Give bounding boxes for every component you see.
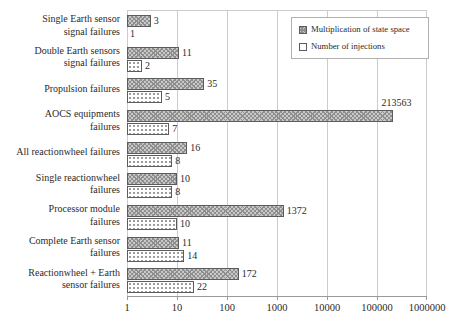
bar-dots — [127, 155, 172, 167]
bar-hatch — [127, 237, 179, 249]
x-tick-label: 1 — [124, 302, 129, 313]
bar-value-label: 35 — [207, 78, 217, 90]
bar-value-label: 3 — [154, 15, 159, 27]
legend-item-injections: Number of injections — [299, 42, 423, 51]
bar-dots — [127, 91, 162, 103]
bar-value-label: 8 — [175, 155, 180, 167]
bar-value-label: 22 — [197, 281, 207, 293]
bar-dots — [127, 250, 184, 262]
x-tick-label: 100 — [219, 302, 235, 313]
bar-value-label: 7 — [172, 123, 177, 135]
bar-value-label: 11 — [182, 47, 192, 59]
bar-value-label: 1372 — [287, 205, 307, 217]
bar-value-label: 8 — [175, 186, 180, 198]
axis-tick — [377, 296, 378, 300]
bar-hatch — [127, 15, 151, 27]
bar-dots — [127, 281, 194, 293]
x-axis: 1101001000100001000001000000 — [127, 302, 427, 316]
bar-value-label: 10 — [180, 173, 190, 185]
bar-value-label: 14 — [187, 250, 197, 262]
legend: Multiplication of state space Number of … — [291, 17, 429, 59]
bar-hatch — [127, 142, 187, 154]
axis-tick — [177, 296, 178, 300]
axis-tick — [127, 296, 128, 300]
x-tick-label: 10 — [172, 302, 183, 313]
axis-tick — [327, 296, 328, 300]
bar-value-label: 172 — [242, 268, 257, 280]
axis-tick — [277, 296, 278, 300]
bar-dots — [127, 186, 172, 198]
dotted-swatch-icon — [299, 43, 307, 51]
bar-hatch — [127, 268, 239, 280]
category-label: All reactionwheel failures — [0, 137, 123, 169]
legend-label-state-space: Multiplication of state space — [311, 25, 410, 34]
category-label: Single reactionwheel failures — [0, 168, 123, 200]
category-label: Reactionwheel + Earth sensor failures — [0, 263, 123, 295]
bar-dots — [127, 60, 142, 72]
axis-tick — [426, 296, 427, 300]
x-tick-label: 1000000 — [409, 302, 446, 313]
bar-hatch — [127, 110, 393, 122]
hatch-swatch-icon — [299, 26, 307, 34]
bar-value-label: 2 — [145, 60, 150, 72]
category-label: Propulsion failures — [0, 73, 123, 105]
category-label: Processor module failures — [0, 200, 123, 232]
bar-value-label: 1 — [130, 28, 135, 40]
chart: Single Earth sensor signal failuresDoubl… — [0, 0, 453, 327]
bar-value-label: 5 — [165, 91, 170, 103]
bar-dots — [127, 218, 177, 230]
bar-value-label: 213563 — [343, 97, 411, 109]
bar-hatch — [127, 173, 177, 185]
category-label: Double Earth sensors signal failures — [0, 42, 123, 74]
legend-item-state-space: Multiplication of state space — [299, 25, 423, 34]
gridline — [277, 11, 278, 296]
bar-hatch — [127, 47, 179, 59]
bar-hatch — [127, 78, 204, 90]
category-label: Single Earth sensor signal failures — [0, 10, 123, 42]
bar-dots — [127, 123, 169, 135]
category-label: Complete Earth sensor failures — [0, 232, 123, 264]
bar-value-label: 16 — [190, 142, 200, 154]
gridline — [227, 11, 228, 296]
x-tick-label: 100000 — [361, 302, 393, 313]
category-labels: Single Earth sensor signal failuresDoubl… — [0, 10, 123, 295]
bar-hatch — [127, 205, 284, 217]
x-tick-label: 10000 — [314, 302, 340, 313]
category-label: AOCS equipments failures — [0, 105, 123, 137]
axis-tick — [227, 296, 228, 300]
bar-value-label: 10 — [180, 218, 190, 230]
bar-value-label: 11 — [182, 237, 192, 249]
legend-label-injections: Number of injections — [311, 42, 385, 51]
x-tick-label: 1000 — [267, 302, 288, 313]
